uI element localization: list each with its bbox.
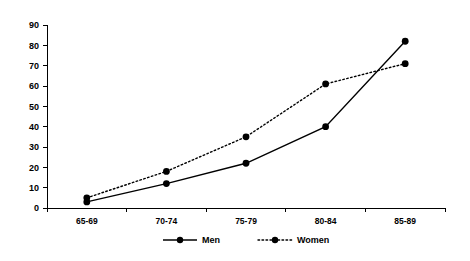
y-tick-label: 40 xyxy=(29,122,39,132)
x-axis-ticks xyxy=(47,208,445,212)
data-point-women xyxy=(322,81,329,88)
y-axis: 0102030405060708090 xyxy=(29,20,47,213)
series-markers-women xyxy=(83,60,408,201)
plot-series-group xyxy=(83,38,408,205)
series-line-women xyxy=(87,64,405,198)
data-point-women xyxy=(163,168,170,175)
y-tick-label: 0 xyxy=(34,203,39,213)
x-category-label: 70-74 xyxy=(156,216,178,226)
legend-marker-women xyxy=(272,237,278,243)
x-category-label: 75-79 xyxy=(235,216,257,226)
data-point-men xyxy=(402,38,409,45)
y-tick-label: 50 xyxy=(29,102,39,112)
legend-label-men: Men xyxy=(202,235,220,245)
data-point-women xyxy=(243,133,250,140)
data-point-women xyxy=(83,194,90,201)
series-markers-men xyxy=(83,38,408,205)
y-tick-label: 20 xyxy=(29,163,39,173)
y-axis-tick-labels: 0102030405060708090 xyxy=(29,20,39,213)
x-category-label: 65-69 xyxy=(76,216,98,226)
data-point-men xyxy=(163,180,170,187)
x-category-label: 85-89 xyxy=(394,216,416,226)
data-point-men xyxy=(322,123,329,130)
x-category-label: 80-84 xyxy=(315,216,337,226)
chart-container: 0102030405060708090 65-6970-7475-7980-84… xyxy=(0,0,470,261)
y-tick-label: 80 xyxy=(29,41,39,51)
y-tick-label: 70 xyxy=(29,61,39,71)
legend: MenWomen xyxy=(163,235,329,245)
y-axis-ticks xyxy=(43,25,47,208)
x-axis: 65-6970-7475-7980-8485-89 xyxy=(47,208,445,226)
x-axis-category-labels: 65-6970-7475-7980-8485-89 xyxy=(76,216,416,226)
y-tick-label: 10 xyxy=(29,183,39,193)
series-line-men xyxy=(87,41,405,202)
data-point-women xyxy=(402,60,409,67)
y-tick-label: 60 xyxy=(29,81,39,91)
legend-label-women: Women xyxy=(297,235,329,245)
legend-marker-men xyxy=(177,237,183,243)
y-tick-label: 90 xyxy=(29,20,39,30)
line-chart: 0102030405060708090 65-6970-7475-7980-84… xyxy=(0,0,470,261)
y-tick-label: 30 xyxy=(29,142,39,152)
data-point-men xyxy=(243,160,250,167)
